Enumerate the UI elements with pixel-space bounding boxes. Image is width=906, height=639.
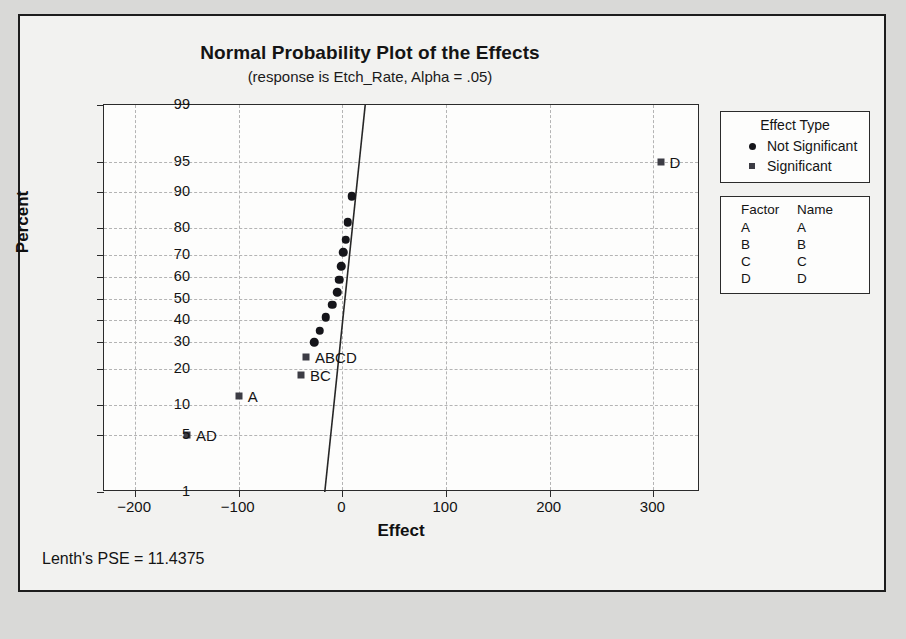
y-tick-label: 95 <box>144 153 190 169</box>
y-tick-mark <box>97 342 104 343</box>
factor-table-row: BB <box>721 237 869 254</box>
data-point-significant <box>657 158 664 165</box>
data-point-not-significant <box>347 192 356 201</box>
legend-item-significant[interactable]: Significant <box>721 156 869 176</box>
y-tick-mark <box>97 369 104 370</box>
x-tick-label: 200 <box>536 498 561 515</box>
y-tick-label: 10 <box>144 396 190 412</box>
x-tick-label: −100 <box>221 498 255 515</box>
factor-table-body: AABBCCDD <box>721 220 869 288</box>
name-cell: B <box>797 237 853 254</box>
y-axis-label: Percent <box>13 191 33 253</box>
y-tick-mark <box>97 162 104 163</box>
y-tick-label: 5 <box>144 426 190 442</box>
data-point-not-significant <box>333 288 342 297</box>
x-tick-label: 300 <box>640 498 665 515</box>
data-point-not-significant <box>335 275 344 284</box>
name-cell: C <box>797 254 853 271</box>
y-tick-label: 99 <box>144 96 190 112</box>
y-tick-mark <box>97 192 104 193</box>
name-cell: D <box>797 271 853 288</box>
legend-title: Effect Type <box>721 117 869 133</box>
y-tick-label: 50 <box>144 290 190 306</box>
y-tick-label: 80 <box>144 219 190 235</box>
factor-table-row: AA <box>721 220 869 237</box>
factor-cell: C <box>741 254 797 271</box>
figure-container: Normal Probability Plot of the Effects (… <box>18 14 886 592</box>
data-point-not-significant <box>341 236 350 245</box>
data-point-label: AD <box>196 427 217 444</box>
name-column-header: Name <box>797 202 853 219</box>
data-point-not-significant <box>310 338 319 347</box>
data-point-not-significant <box>322 313 331 322</box>
plot-area: ADABCABCDD <box>103 104 699 491</box>
square-marker-icon <box>743 163 761 169</box>
factor-table-header: Factor Name <box>721 202 869 219</box>
y-tick-mark <box>97 492 104 493</box>
legend-item-label: Significant <box>767 158 832 174</box>
factor-cell: D <box>741 271 797 288</box>
legend-effect-type: Effect Type Not Significant Significant <box>720 111 870 183</box>
data-point-significant <box>303 354 310 361</box>
y-tick-label: 40 <box>144 311 190 327</box>
data-point-not-significant <box>337 262 346 271</box>
legend-item-not-significant[interactable]: Not Significant <box>721 136 869 156</box>
data-point-label: ABCD <box>315 349 357 366</box>
x-axis-label: Effect <box>103 521 699 541</box>
factor-cell: A <box>741 220 797 237</box>
lenth-pse-annotation: Lenth's PSE = 11.4375 <box>42 550 204 568</box>
y-tick-mark <box>97 105 104 106</box>
x-tick-label: 100 <box>433 498 458 515</box>
legend-item-label: Not Significant <box>767 138 857 154</box>
y-tick-label: 70 <box>144 246 190 262</box>
data-point-not-significant <box>315 326 324 335</box>
legend-factor-table: Factor Name AABBCCDD <box>720 196 870 294</box>
y-tick-label: 20 <box>144 360 190 376</box>
name-cell: A <box>797 220 853 237</box>
chart-subtitle: (response is Etch_Rate, Alpha = .05) <box>20 68 720 85</box>
factor-cell: B <box>741 237 797 254</box>
factor-column-header: Factor <box>741 202 797 219</box>
y-tick-mark <box>97 228 104 229</box>
data-point-not-significant <box>328 301 337 310</box>
factor-table-row: CC <box>721 254 869 271</box>
data-point-label: BC <box>310 366 331 383</box>
factor-table-row: DD <box>721 271 869 288</box>
x-tick-label: 0 <box>337 498 345 515</box>
y-tick-mark <box>97 277 104 278</box>
y-tick-label: 60 <box>144 268 190 284</box>
circle-marker-icon <box>743 143 761 150</box>
data-point-label: D <box>670 153 681 170</box>
y-tick-mark <box>97 299 104 300</box>
y-tick-label: 1 <box>144 483 190 499</box>
data-point-not-significant <box>343 218 352 227</box>
data-point-not-significant <box>339 248 348 257</box>
y-tick-mark <box>97 320 104 321</box>
data-point-significant <box>297 371 304 378</box>
y-tick-mark <box>97 405 104 406</box>
chart-title: Normal Probability Plot of the Effects <box>20 42 720 64</box>
data-point-significant <box>235 393 242 400</box>
y-tick-mark <box>97 255 104 256</box>
normal-fit-line <box>104 105 700 492</box>
y-tick-label: 90 <box>144 183 190 199</box>
y-tick-mark <box>97 435 104 436</box>
y-tick-label: 30 <box>144 333 190 349</box>
x-tick-label: −200 <box>117 498 151 515</box>
data-point-label: A <box>248 388 258 405</box>
